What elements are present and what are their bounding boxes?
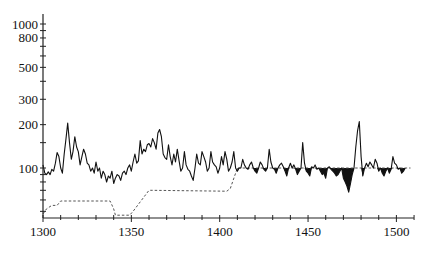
index-solid-line: [43, 122, 405, 193]
chart-canvas: 1002003005008001000 13001350140014501500: [0, 0, 439, 255]
y-tick-label: 200: [19, 117, 39, 132]
y-tick-label: 1000: [12, 17, 38, 32]
reference-dashed-line: [43, 168, 411, 215]
x-tick-label: 1400: [207, 224, 233, 239]
x-tick-label: 1350: [118, 224, 144, 239]
y-tick-label: 300: [19, 92, 39, 107]
x-tick-label: 1500: [383, 224, 409, 239]
y-axis-labels: 1002003005008001000: [12, 17, 38, 176]
x-axis-labels: 13001350140014501500: [30, 224, 409, 239]
below-reference-fill: [237, 168, 405, 192]
x-tick-label: 1450: [295, 224, 321, 239]
y-tick-label: 100: [19, 161, 39, 176]
below-reference-area: [237, 168, 405, 192]
y-tick-label: 800: [19, 30, 39, 45]
x-tick-label: 1300: [30, 224, 56, 239]
y-tick-label: 500: [19, 60, 39, 75]
